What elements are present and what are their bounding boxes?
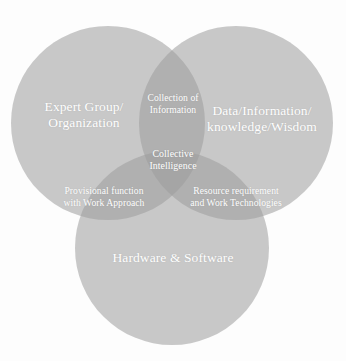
venn-circles-canvas [0,0,346,361]
venn-diagram: Expert Group/ Organization Data/Informat… [0,0,346,361]
venn-circle-group [11,26,333,345]
circle-hardware-software [75,151,269,345]
